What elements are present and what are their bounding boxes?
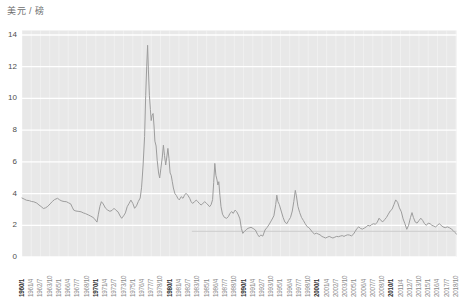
y-axis-tick-label: 12 bbox=[0, 63, 17, 71]
x-axis-tick-label: 1960/1 bbox=[18, 260, 25, 297]
x-axis-tick-label: 1977/7 bbox=[147, 260, 154, 297]
x-axis-tick-label: 2018/10 bbox=[452, 260, 459, 297]
x-axis-tick-label: 1981/4 bbox=[175, 260, 182, 297]
x-axis-tick-label: 1997/7 bbox=[295, 260, 302, 297]
y-axis-tick-label: 2 bbox=[0, 221, 17, 229]
y-axis-tick-label: 8 bbox=[0, 126, 17, 134]
x-axis-tick-label: 1962/7 bbox=[36, 260, 43, 297]
x-axis-tick-label: 1973/10 bbox=[120, 260, 127, 297]
x-axis-tick-label: 1986/4 bbox=[212, 260, 219, 297]
y-axis-tick-label: 10 bbox=[0, 94, 17, 102]
x-axis-tick-label: 2013/10 bbox=[415, 260, 422, 297]
x-axis-tick-label: 2001/4 bbox=[323, 260, 330, 297]
x-axis-tick-label: 1982/7 bbox=[184, 260, 191, 297]
x-axis-tick-label: 1990/1 bbox=[240, 260, 247, 297]
x-axis-tick-label: 1967/7 bbox=[73, 260, 80, 297]
x-axis-tick-label: 2012/7 bbox=[406, 260, 413, 297]
x-axis-tick-label: 1961/4 bbox=[27, 260, 34, 297]
x-axis-tick-label: 1983/10 bbox=[193, 260, 200, 297]
x-axis-tick-label: 1970/1 bbox=[92, 260, 99, 297]
x-axis-tick-label: 1971/4 bbox=[101, 260, 108, 297]
x-axis-tick-label: 2017/7 bbox=[443, 260, 450, 297]
x-axis-tick-label: 1966/4 bbox=[64, 260, 71, 297]
x-axis-tick-label: 1987/7 bbox=[221, 260, 228, 297]
x-axis-tick-label: 2005/1 bbox=[350, 260, 357, 297]
x-axis-tick-label: 2006/4 bbox=[360, 260, 367, 297]
x-axis-tick-label: 1985/1 bbox=[203, 260, 210, 297]
x-axis-tick-label: 1978/10 bbox=[156, 260, 163, 297]
x-axis-tick-label: 2015/1 bbox=[424, 260, 431, 297]
y-axis-tick-label: 14 bbox=[0, 31, 17, 39]
x-axis-tick-label: 2011/4 bbox=[397, 260, 404, 297]
x-axis-tick-label: 1968/10 bbox=[83, 260, 90, 297]
x-axis-tick-label: 1996/4 bbox=[286, 260, 293, 297]
x-axis-tick-label: 1998/10 bbox=[304, 260, 311, 297]
x-axis-tick-label: 2016/4 bbox=[433, 260, 440, 297]
x-axis-tick-label: 1975/1 bbox=[129, 260, 136, 297]
x-axis-tick-label: 1991/4 bbox=[249, 260, 256, 297]
y-axis-tick-label: 0 bbox=[0, 253, 17, 261]
x-axis-tick-label: 2007/7 bbox=[369, 260, 376, 297]
x-axis-tick-label: 1965/1 bbox=[55, 260, 62, 297]
price-line-chart: 美元 / 磅 02468101214 1960/11961/41962/7196… bbox=[0, 0, 461, 299]
x-axis-tick-label: 2003/10 bbox=[341, 260, 348, 297]
y-axis-tick-label: 6 bbox=[0, 158, 17, 166]
x-axis-tick-label: 1963/10 bbox=[46, 260, 53, 297]
y-axis-tick-label: 4 bbox=[0, 190, 17, 198]
x-axis-tick-label: 1993/10 bbox=[267, 260, 274, 297]
x-axis-tick-label: 2000/1 bbox=[313, 260, 320, 297]
x-axis-tick-label: 1988/10 bbox=[230, 260, 237, 297]
x-axis-tick-label: 1976/4 bbox=[138, 260, 145, 297]
x-axis-tick-label: 1992/7 bbox=[258, 260, 265, 297]
plot-area bbox=[0, 0, 461, 299]
x-axis-tick-label: 1972/7 bbox=[110, 260, 117, 297]
x-axis-tick-label: 2008/10 bbox=[378, 260, 385, 297]
x-axis-tick-label: 1995/1 bbox=[276, 260, 283, 297]
x-axis-tick-label: 2010/1 bbox=[387, 260, 394, 297]
x-axis-tick-label: 1980/1 bbox=[166, 260, 173, 297]
x-axis-tick-label: 2002/7 bbox=[332, 260, 339, 297]
